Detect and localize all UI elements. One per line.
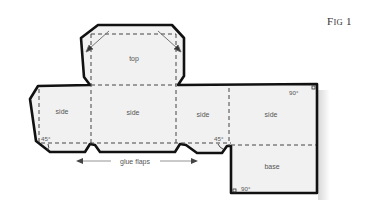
box-net-svg: top side side side side base 45° 45° 90°… xyxy=(0,0,378,205)
angle-label-top-right: 90° xyxy=(289,89,299,96)
box-net-diagram: top side side side side base 45° 45° 90°… xyxy=(0,0,378,205)
figure-label: FIG 1 xyxy=(327,15,352,27)
panel-label-side-3: side xyxy=(197,111,210,118)
angle-label-mid: 45° xyxy=(214,135,224,142)
panel-label-side-4: side xyxy=(265,111,278,118)
figure-label-number: 1 xyxy=(346,15,352,27)
angle-label-bottom: 90° xyxy=(241,185,251,192)
panel-label-side-1: side xyxy=(56,108,69,115)
net-shadow xyxy=(318,90,330,200)
angle-label-left: 45° xyxy=(41,135,51,142)
figure-label-smallcaps: IG xyxy=(333,17,343,27)
panel-label-side-2: side xyxy=(127,109,140,116)
glue-flaps-label: glue flaps xyxy=(120,158,150,166)
arrow-right-icon xyxy=(191,158,198,164)
panel-label-top: top xyxy=(129,55,139,63)
arrow-left-icon xyxy=(76,158,83,164)
glue-flaps-arrow: glue flaps xyxy=(76,158,198,166)
panel-label-base: base xyxy=(264,163,279,170)
